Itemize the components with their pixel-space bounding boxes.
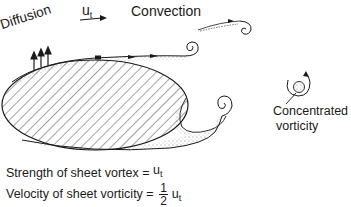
fraction-denominator: 2 <box>159 195 168 207</box>
ut-symbol: u <box>82 2 90 18</box>
velocity-symbol: u <box>172 187 179 201</box>
strength-equation: Strength of sheet vortex = ut <box>6 166 162 180</box>
velocity-equation: Velocity of sheet vorticity = 1 2 ut <box>6 182 181 207</box>
concentrated-vortex <box>286 71 310 104</box>
velocity-equation-label: Velocity of sheet vorticity = <box>6 187 154 201</box>
strength-subscript: t <box>160 169 163 179</box>
concentrated-vorticity-label: Concentrated vorticity <box>273 104 348 134</box>
strength-equation-label: Strength of sheet vortex = <box>6 166 150 180</box>
one-half-fraction: 1 2 <box>159 182 168 207</box>
ut-subscript: t <box>90 10 93 20</box>
ut-label: ut <box>82 2 92 18</box>
convection-label: Convection <box>131 3 201 19</box>
concentrated-label-line2: vorticity <box>273 119 348 134</box>
convected-vortex <box>198 19 251 34</box>
velocity-subscript: t <box>179 193 182 203</box>
strength-symbol: u <box>153 163 160 177</box>
concentrated-label-line1: Concentrated <box>273 104 348 119</box>
